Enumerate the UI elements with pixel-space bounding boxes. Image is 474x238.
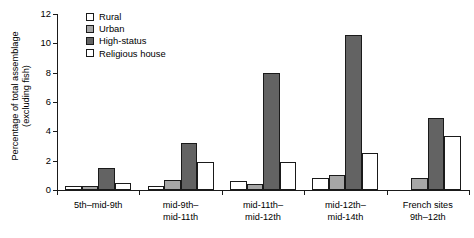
- x-group-label-4: mid-12th–mid-14th: [304, 200, 386, 223]
- x-group-label-4-line-1: mid-12th–: [304, 200, 386, 212]
- bar-rural-group-2: [148, 186, 165, 190]
- x-group-label-3-line-2: mid-12th: [222, 212, 304, 224]
- legend-label-3: High-status: [99, 36, 146, 45]
- y-axis-title-line-1: Percentage of total assemblage: [10, 31, 21, 160]
- y-axis-title-line-2: (excluding fish): [21, 65, 32, 127]
- x-group-label-3-line-1: mid-11th–: [222, 200, 304, 212]
- legend-swatch-icon-3: [86, 37, 94, 45]
- x-tick-0: [57, 190, 58, 195]
- bar-urban-group-4: [329, 175, 346, 190]
- legend-item-urban: Urban: [86, 23, 166, 35]
- bar-urban-group-5: [411, 178, 428, 190]
- x-group-label-2-line-1: mid-9th–: [139, 200, 221, 212]
- y-tick-label-2: 2: [46, 156, 51, 165]
- legend-swatch-icon-4: [86, 49, 94, 57]
- bar-rural-group-1: [65, 186, 82, 190]
- y-axis-line: [57, 14, 58, 190]
- bar-religious-house-group-3: [280, 162, 297, 190]
- bar-rural-group-4: [312, 178, 329, 190]
- y-tick-label-6: 6: [46, 97, 51, 106]
- x-group-label-1: 5th–mid-9th: [57, 200, 139, 212]
- legend-label-4: Religious house: [99, 49, 166, 58]
- legend-item-religious-house: Religious house: [86, 48, 166, 60]
- bar-chart: Percentage of total assemblage (excludin…: [0, 0, 474, 238]
- x-tick-2: [222, 190, 223, 195]
- y-tick-label-10: 10: [41, 39, 51, 48]
- bar-urban-group-3: [247, 184, 264, 190]
- y-tick-label-8: 8: [46, 68, 51, 77]
- chart-legend: RuralUrbanHigh-statusReligious house: [86, 11, 166, 60]
- legend-item-high-status: High-status: [86, 35, 166, 47]
- legend-label-1: Rural: [99, 12, 121, 21]
- y-tick-10: [53, 43, 57, 44]
- x-group-label-2-line-2: mid-11th: [139, 212, 221, 224]
- bar-high-status-group-3: [263, 73, 280, 190]
- bar-urban-group-1: [82, 186, 99, 190]
- y-tick-label-4: 4: [46, 127, 51, 136]
- legend-label-2: Urban: [99, 24, 125, 33]
- bar-high-status-group-5: [428, 118, 445, 190]
- y-tick-label-0: 0: [46, 185, 51, 194]
- x-group-label-5-line-1: French sites: [387, 200, 469, 212]
- bar-rural-group-3: [230, 181, 247, 190]
- y-tick-12: [53, 14, 57, 15]
- legend-swatch-icon-2: [86, 25, 94, 33]
- x-group-label-2: mid-9th–mid-11th: [139, 200, 221, 223]
- y-tick-4: [53, 131, 57, 132]
- y-tick-6: [53, 102, 57, 103]
- legend-item-rural: Rural: [86, 11, 166, 23]
- x-tick-5: [469, 190, 470, 195]
- y-tick-2: [53, 161, 57, 162]
- bar-high-status-group-2: [181, 143, 198, 190]
- x-group-label-3: mid-11th–mid-12th: [222, 200, 304, 223]
- bar-religious-house-group-1: [115, 183, 132, 190]
- legend-swatch-icon-1: [86, 13, 94, 21]
- y-tick-8: [53, 73, 57, 74]
- y-axis-title: Percentage of total assemblage (excludin…: [4, 1, 38, 191]
- bar-religious-house-group-2: [197, 162, 214, 190]
- x-axis-line: [57, 190, 469, 191]
- bar-high-status-group-4: [345, 35, 362, 190]
- x-tick-3: [304, 190, 305, 195]
- bar-religious-house-group-4: [362, 153, 379, 190]
- x-tick-1: [139, 190, 140, 195]
- x-group-label-5: French sites9th–12th: [387, 200, 469, 223]
- bar-urban-group-2: [164, 180, 181, 190]
- x-group-label-1-line-1: 5th–mid-9th: [57, 200, 139, 212]
- y-tick-label-12: 12: [41, 9, 51, 18]
- bar-religious-house-group-5: [444, 136, 461, 190]
- x-tick-4: [387, 190, 388, 195]
- bar-high-status-group-1: [98, 168, 115, 190]
- x-group-label-4-line-2: mid-14th: [304, 212, 386, 224]
- x-group-label-5-line-2: 9th–12th: [387, 212, 469, 224]
